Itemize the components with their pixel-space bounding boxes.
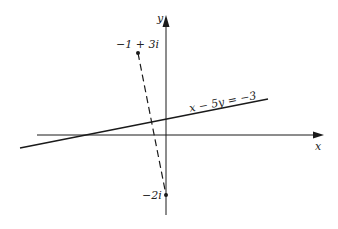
x-axis xyxy=(37,132,324,139)
point-minus-1-plus-3i xyxy=(136,51,140,55)
complex-plane-diagram: y x −1 + 3i −2i x − 5y = −3 xyxy=(0,0,338,229)
y-axis-arrow-icon xyxy=(163,15,170,27)
x-axis-arrow-icon xyxy=(313,132,324,139)
y-axis-label: y xyxy=(156,12,164,25)
point-minus-2i xyxy=(164,193,168,197)
point-label-minus-2i: −2i xyxy=(142,189,162,202)
point-label-minus-1-plus-3i: −1 + 3i xyxy=(116,38,159,51)
x-axis-label: x xyxy=(315,140,322,153)
line-equation-label: x − 5y = −3 xyxy=(188,89,257,115)
